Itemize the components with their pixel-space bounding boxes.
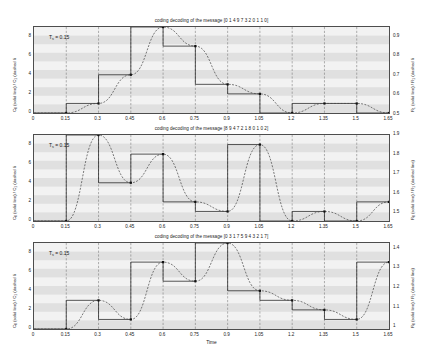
- x-tick-label: 0.75: [180, 116, 208, 121]
- data-point: [162, 26, 164, 28]
- plot-area: [33, 242, 390, 330]
- data-point: [65, 328, 67, 330]
- data-point: [291, 299, 293, 301]
- data-point: [97, 102, 99, 104]
- x-tick-label: 1.05: [245, 116, 273, 121]
- data-point: [227, 83, 229, 85]
- data-point: [227, 210, 229, 212]
- plot-canvas: [34, 27, 389, 113]
- y2-tick-label: 1.7: [393, 170, 399, 175]
- y-tick-label: 2: [20, 306, 31, 311]
- data-point: [291, 112, 293, 114]
- data-point: [130, 318, 132, 320]
- y2-tick-label: 0.8: [393, 52, 399, 57]
- sampling-period-note: Ts = 0.15: [49, 34, 69, 40]
- data-point: [227, 242, 229, 244]
- x-tick-label: 0.9: [213, 224, 241, 229]
- x-tick-label: 0.15: [51, 116, 79, 121]
- x-tick-label: 0.6: [148, 224, 176, 229]
- data-point: [356, 220, 358, 222]
- x-tick-label: 0.9: [213, 332, 241, 337]
- y-tick-label: 4: [20, 71, 31, 76]
- y-tick-label: 6: [20, 160, 31, 165]
- sampling-period-note: Ts = 0.15: [49, 250, 69, 256]
- data-point: [65, 112, 67, 114]
- y2-tick-label: 1.2: [393, 284, 399, 289]
- x-tick-label: 1.35: [309, 224, 337, 229]
- y-tick-label: 0: [20, 109, 31, 114]
- plot-canvas: [34, 135, 389, 221]
- plot-area: [33, 26, 390, 114]
- x-tick-label: 0: [19, 224, 47, 229]
- data-point: [194, 201, 196, 203]
- data-point: [65, 220, 67, 222]
- y-tick-label: 6: [20, 52, 31, 57]
- x-tick-label: 0.6: [148, 332, 176, 337]
- y-tick-label: 8: [20, 33, 31, 38]
- y-tick-label: 4: [20, 179, 31, 184]
- x-tick-label: 0: [19, 116, 47, 121]
- y-tick-label: 2: [20, 90, 31, 95]
- x-tick-label: 0.15: [51, 224, 79, 229]
- data-point: [97, 134, 99, 136]
- x-tick-label: 1.2: [277, 224, 305, 229]
- figure-root: coding decoding of the message [0 1 4 9 …: [0, 0, 423, 358]
- plot-area: [33, 134, 390, 222]
- x-tick-label: 0.3: [84, 224, 112, 229]
- y-tick-label: 6: [20, 268, 31, 273]
- x-tick-label: 0.3: [84, 332, 112, 337]
- data-point: [323, 102, 325, 104]
- data-point: [162, 261, 164, 263]
- chart-title: coding decoding of the message [0 3 1 7 …: [0, 234, 423, 239]
- data-point: [97, 299, 99, 301]
- x-tick-label: 1.5: [342, 116, 370, 121]
- data-point: [194, 45, 196, 47]
- x-tick-label: 0.45: [116, 332, 144, 337]
- y-axis-label-right: R0 (solid line) / R1 (dashed line): [410, 160, 415, 220]
- x-tick-label: 0.9: [213, 116, 241, 121]
- x-tick-label: 1.2: [277, 116, 305, 121]
- data-point: [388, 261, 390, 263]
- data-point: [388, 201, 390, 203]
- x-tick-label: 0.15: [51, 332, 79, 337]
- data-point: [356, 102, 358, 104]
- x-tick-label: 0.75: [180, 224, 208, 229]
- x-tick-label: 1.65: [374, 116, 402, 121]
- data-point: [356, 318, 358, 320]
- data-point: [323, 210, 325, 212]
- y-axis-label-right: R1 (solid line) / R1 (dashed li: [410, 58, 415, 112]
- y-tick-label: 2: [20, 198, 31, 203]
- data-point: [259, 143, 261, 145]
- y-axis-label-left: C0 (solid line) / C1 (dashed li: [12, 274, 17, 328]
- y2-tick-label: 0.9: [393, 33, 399, 38]
- data-point: [162, 153, 164, 155]
- y2-tick-label: 1.4: [393, 245, 399, 250]
- y2-tick-label: 0.7: [393, 72, 399, 77]
- x-tick-label: 0.75: [180, 332, 208, 337]
- data-point: [259, 93, 261, 95]
- y-tick-label: 4: [20, 287, 31, 292]
- y2-tick-label: 1.1: [393, 304, 399, 309]
- x-tick-label: 1.5: [342, 332, 370, 337]
- data-point: [323, 309, 325, 311]
- x-tick-label: 0: [19, 332, 47, 337]
- sampling-period-note: Ts = 0.15: [49, 142, 69, 148]
- x-tick-label: 1.35: [309, 116, 337, 121]
- y2-tick-label: 1: [393, 323, 396, 328]
- x-tick-label: 1.65: [374, 332, 402, 337]
- x-tick-label: 1.5: [342, 224, 370, 229]
- data-point: [259, 290, 261, 292]
- y2-tick-label: 1.9: [393, 131, 399, 136]
- y2-tick-label: 1.6: [393, 190, 399, 195]
- data-point: [194, 280, 196, 282]
- x-tick-label: 0.6: [148, 116, 176, 121]
- y2-tick-label: 1.5: [393, 209, 399, 214]
- y2-tick-label: 0.6: [393, 91, 399, 96]
- x-tick-label: 1.2: [277, 332, 305, 337]
- x-axis-label: Time: [0, 340, 423, 345]
- data-point: [130, 182, 132, 184]
- y-tick-label: 8: [20, 141, 31, 146]
- x-tick-label: 1.35: [309, 332, 337, 337]
- y-tick-label: 8: [20, 249, 31, 254]
- x-tick-label: 1.05: [245, 224, 273, 229]
